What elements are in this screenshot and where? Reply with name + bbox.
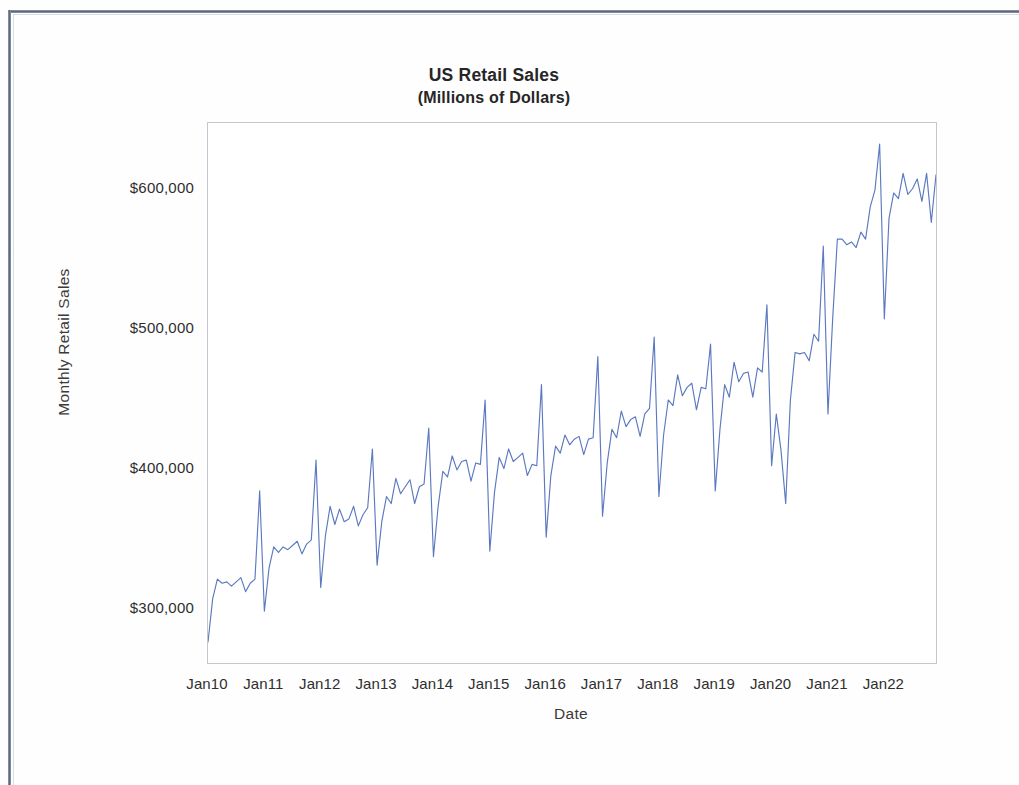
retail-sales-line bbox=[208, 144, 936, 642]
page-edge-left bbox=[8, 10, 11, 785]
line-chart-svg bbox=[208, 123, 936, 663]
chart-figure: US Retail Sales (Millions of Dollars) Mo… bbox=[14, 15, 1019, 785]
plot-area bbox=[207, 122, 937, 664]
scanned-page: US Retail Sales (Millions of Dollars) Mo… bbox=[0, 0, 1019, 785]
page-edge-top bbox=[8, 10, 1019, 13]
x-axis-tick-label: Jan22 bbox=[848, 675, 918, 692]
